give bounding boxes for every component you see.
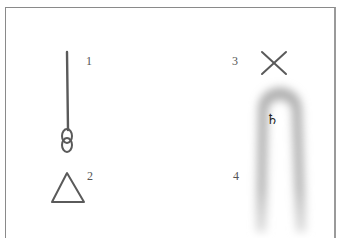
- diagram-canvas: [0, 0, 339, 238]
- label-3: 3: [232, 55, 238, 67]
- label-2: 2: [87, 170, 93, 182]
- line-knot-icon: [62, 52, 72, 152]
- x-cross-icon: [262, 52, 286, 74]
- label-4: 4: [233, 170, 239, 182]
- saturn-symbol-icon: ♄: [266, 114, 279, 126]
- blurred-arch-shape: [256, 88, 306, 233]
- triangle-icon: [52, 173, 84, 202]
- label-1: 1: [86, 55, 92, 67]
